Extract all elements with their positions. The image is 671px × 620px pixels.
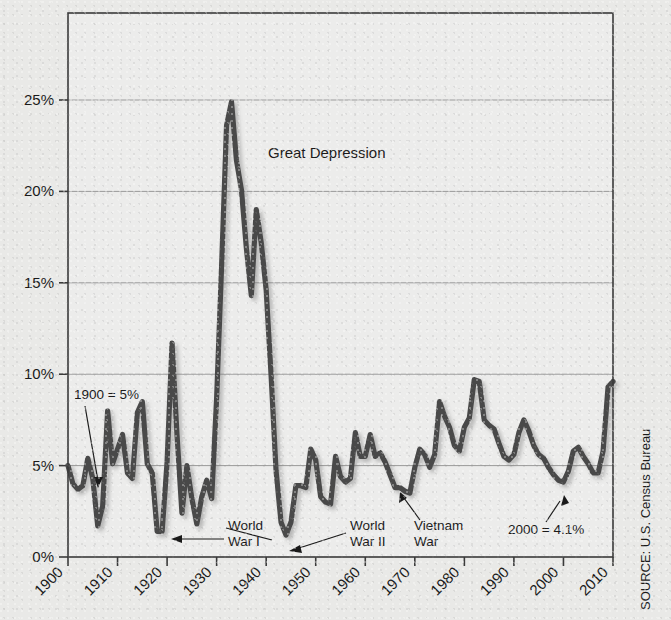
- x-tick-label-1960: 1960: [328, 563, 364, 599]
- annotation-wwi-line2: War I: [228, 534, 260, 549]
- x-tick-label-1900: 1900: [31, 563, 67, 599]
- annotation-wwii-line1: World: [350, 518, 385, 533]
- y-tick-label-15: 15%: [24, 274, 54, 291]
- annotation-wwi-line1: World: [228, 518, 263, 533]
- x-tick-label-1990: 1990: [476, 563, 512, 599]
- y-tick-label-10: 10%: [24, 365, 54, 382]
- x-tick-label-2000: 2000: [526, 563, 562, 599]
- annotation-2000-label: 2000 = 4.1%: [508, 522, 584, 537]
- x-tick-label-2010: 2010: [576, 563, 612, 599]
- y-tick-label-0: 0%: [32, 548, 54, 565]
- x-tick-label-1910: 1910: [80, 563, 116, 599]
- x-tick-label-1970: 1970: [377, 563, 413, 599]
- annotation-great-depression: Great Depression: [268, 144, 386, 161]
- chart-svg: 0%5%10%15%20%25% 19001910192019301940195…: [0, 0, 671, 620]
- x-tick-label-1930: 1930: [179, 563, 215, 599]
- source-label: SOURCE: U.S. Census Bureau: [638, 429, 653, 610]
- y-tick-label-25: 25%: [24, 91, 54, 108]
- x-axis-ticks: 1900191019201930194019501960197019801990…: [31, 557, 613, 599]
- unemployment-rate-chart: 0%5%10%15%20%25% 19001910192019301940195…: [0, 0, 671, 620]
- x-tick-label-1920: 1920: [130, 563, 166, 599]
- y-tick-label-20: 20%: [24, 182, 54, 199]
- x-tick-label-1950: 1950: [278, 563, 314, 599]
- annotation-wwii-line2: War II: [350, 534, 386, 549]
- x-tick-label-1980: 1980: [427, 563, 463, 599]
- annotation-vietnam-line1: Vietnam: [414, 518, 463, 533]
- y-tick-label-5: 5%: [32, 457, 54, 474]
- y-axis-ticks: 0%5%10%15%20%25%: [24, 91, 68, 565]
- annotation-vietnam-line2: War: [414, 534, 439, 549]
- x-tick-label-1940: 1940: [229, 563, 265, 599]
- annotation-1900-label: 1900 = 5%: [74, 387, 139, 402]
